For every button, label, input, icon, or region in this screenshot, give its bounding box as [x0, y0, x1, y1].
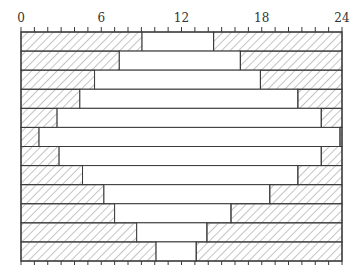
segmented-bar-diagram: 06121824: [0, 0, 363, 280]
hatched-right-segment: [207, 223, 342, 242]
hatched-left-segment: [21, 185, 104, 204]
hatched-left-segment: [21, 147, 59, 166]
white-middle-segment: [83, 166, 298, 185]
hatched-left-segment: [21, 166, 83, 185]
hatched-right-segment: [270, 185, 342, 204]
x-tick-label: 0: [17, 11, 25, 25]
hatched-right-segment: [240, 51, 342, 70]
bar-row: [21, 108, 342, 127]
white-middle-segment: [104, 185, 270, 204]
x-tick-label: 18: [254, 11, 269, 25]
bar-row: [21, 185, 342, 204]
hatched-right-segment: [214, 32, 342, 51]
bar-row: [21, 51, 342, 70]
white-middle-segment: [57, 108, 321, 127]
white-middle-segment: [119, 51, 240, 70]
hatched-left-segment: [21, 127, 39, 146]
white-middle-segment: [156, 242, 196, 261]
white-middle-segment: [95, 70, 261, 89]
bar-rows: [21, 32, 342, 261]
hatched-right-segment: [321, 108, 342, 127]
hatched-left-segment: [21, 89, 80, 108]
bar-row: [21, 166, 342, 185]
hatched-right-segment: [231, 204, 342, 223]
hatched-left-segment: [21, 51, 119, 70]
hatched-right-segment: [260, 70, 342, 89]
hatched-right-segment: [321, 147, 342, 166]
bar-row: [21, 32, 342, 51]
hatched-left-segment: [21, 204, 115, 223]
bar-row: [21, 223, 342, 242]
hatched-left-segment: [21, 242, 156, 261]
white-middle-segment: [80, 89, 298, 108]
bar-row: [21, 70, 342, 89]
white-middle-segment: [115, 204, 231, 223]
hatched-right-segment: [298, 166, 342, 185]
white-middle-segment: [142, 32, 214, 51]
x-tick-label: 12: [174, 11, 189, 25]
white-middle-segment: [137, 223, 207, 242]
hatched-right-segment: [298, 89, 342, 108]
white-middle-segment: [39, 127, 340, 146]
hatched-left-segment: [21, 108, 57, 127]
bar-row: [21, 204, 342, 223]
bar-row: [21, 127, 342, 146]
white-middle-segment: [59, 147, 321, 166]
hatched-right-segment: [196, 242, 342, 261]
hatched-left-segment: [21, 223, 137, 242]
x-tick-label: 6: [97, 11, 105, 25]
hatched-left-segment: [21, 70, 95, 89]
hatched-left-segment: [21, 32, 142, 51]
bar-row: [21, 147, 342, 166]
x-tick-label: 24: [334, 11, 350, 25]
bar-row: [21, 89, 342, 108]
bar-row: [21, 242, 342, 261]
